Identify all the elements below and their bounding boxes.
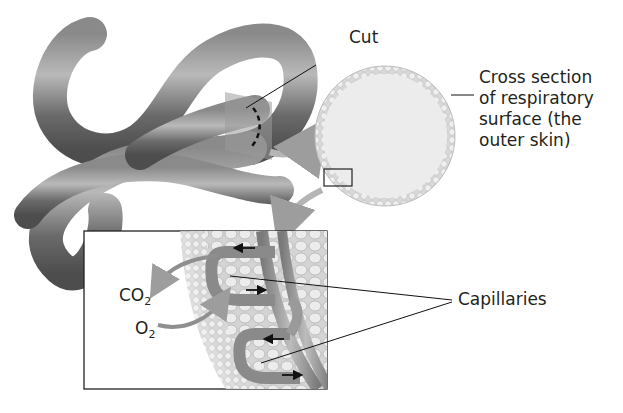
cross-section-label-line-1: Cross section <box>479 67 619 88</box>
cross-section-label-line-3: surface (the <box>479 109 619 130</box>
cross-section-label-line-4: outer skin) <box>479 130 619 151</box>
o2-label-base: O <box>135 318 148 338</box>
co2-label-base: CO <box>119 285 144 305</box>
cross-section-circle <box>315 66 455 206</box>
capillaries-label: Capillaries <box>458 289 547 310</box>
o2-label: O2 <box>135 318 155 339</box>
diagram-artwork <box>0 0 623 413</box>
cross-section-label: Cross section of respiratory surface (th… <box>479 67 619 151</box>
capillary-inset <box>84 231 330 389</box>
cut-label: Cut <box>349 27 378 48</box>
co2-label: CO2 <box>119 285 151 306</box>
co2-label-subscript: 2 <box>144 295 151 308</box>
o2-label-subscript: 2 <box>148 328 155 341</box>
cross-section-label-line-2: of respiratory <box>479 88 619 109</box>
